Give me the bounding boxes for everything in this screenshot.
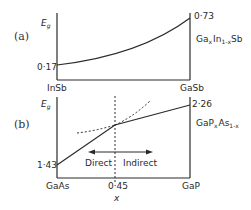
crossover-value: 0·45 (108, 181, 128, 191)
arrow-left-head-icon (88, 150, 95, 155)
panel-b-right-material: GaP (182, 181, 200, 191)
panel-b-bandgap-line (57, 105, 190, 165)
x-axis-label: x (113, 193, 120, 203)
panel-b-left-value: 1·43 (37, 160, 57, 170)
panel-a-label: (a) (14, 30, 29, 43)
bandgap-diagram: (a) Eg 0·17 0·73 InSb GaSb GaxIn1-xSb (b… (0, 0, 251, 210)
panel-a-right-material: GaSb (180, 83, 204, 93)
direct-gap-extension (115, 101, 150, 125)
panel-a-left-material: InSb (47, 83, 67, 93)
indirect-label: Indirect (123, 158, 158, 168)
panel-b-alloy-formula: GaPxAs1-x (196, 118, 239, 129)
panel-b: (b) Eg Direct Indirect 1·43 2·26 GaAs 0·… (14, 96, 239, 203)
panel-b-label: (b) (14, 118, 30, 131)
panel-b-left-material: GaAs (46, 181, 70, 191)
panel-b-right-value: 2·26 (192, 99, 212, 109)
panel-a-right-value: 0·73 (194, 11, 214, 21)
arrow-right-head-icon (146, 150, 153, 155)
panel-a-y-axis-label: Eg (41, 18, 51, 30)
direct-label: Direct (85, 158, 112, 168)
panel-a-left-value: 0·17 (37, 62, 57, 72)
panel-b-y-axis-label: Eg (41, 99, 51, 111)
panel-a-bandgap-curve (57, 18, 190, 65)
panel-a: (a) Eg 0·17 0·73 InSb GaSb GaxIn1-xSb (14, 11, 243, 93)
panel-a-alloy-formula: GaxIn1-xSb (196, 34, 243, 45)
